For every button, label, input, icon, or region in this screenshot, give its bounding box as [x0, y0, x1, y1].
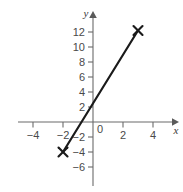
y-tick-label-8: 8	[79, 56, 85, 68]
axes-group	[18, 11, 179, 186]
y-tick-label-12: 12	[73, 26, 85, 38]
y-tick-label-6: 6	[79, 71, 85, 83]
line-chart: −4 −2 2 4 −6 −4 −2 2 4 6 8 10 12 0 y x	[0, 0, 183, 192]
data-point-marker-lower	[59, 148, 68, 157]
y-tick-label-minus2: −2	[72, 131, 85, 143]
data-point-marker-upper	[134, 26, 143, 35]
y-tick-label-4: 4	[79, 86, 85, 98]
y-tick-label-minus4: −4	[72, 146, 85, 158]
y-tick-label-10: 10	[73, 41, 85, 53]
y-axis-arrow-icon	[89, 11, 97, 18]
chart-canvas: −4 −2 2 4 −6 −4 −2 2 4 6 8 10 12 0 y x	[0, 0, 183, 192]
y-axis-label: y	[83, 7, 89, 19]
y-tick-label-minus6: −6	[72, 161, 85, 173]
y-axis-ticks	[88, 32, 93, 167]
x-tick-label-minus4: −4	[27, 129, 40, 141]
x-tick-label-minus2: −2	[57, 129, 70, 141]
x-axis-label: x	[173, 124, 179, 136]
x-tick-label-2: 2	[120, 129, 126, 141]
y-tick-label-2: 2	[79, 101, 85, 113]
origin-label: 0	[97, 123, 103, 135]
x-tick-label-4: 4	[150, 129, 156, 141]
